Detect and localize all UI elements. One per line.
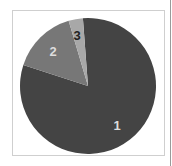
slice-label-2: 2 xyxy=(49,44,56,59)
pie-slices xyxy=(20,18,156,154)
pie-chart: 1 2 3 xyxy=(0,0,172,166)
slice-label-3: 3 xyxy=(73,28,80,43)
slice-label-1: 1 xyxy=(113,118,120,133)
